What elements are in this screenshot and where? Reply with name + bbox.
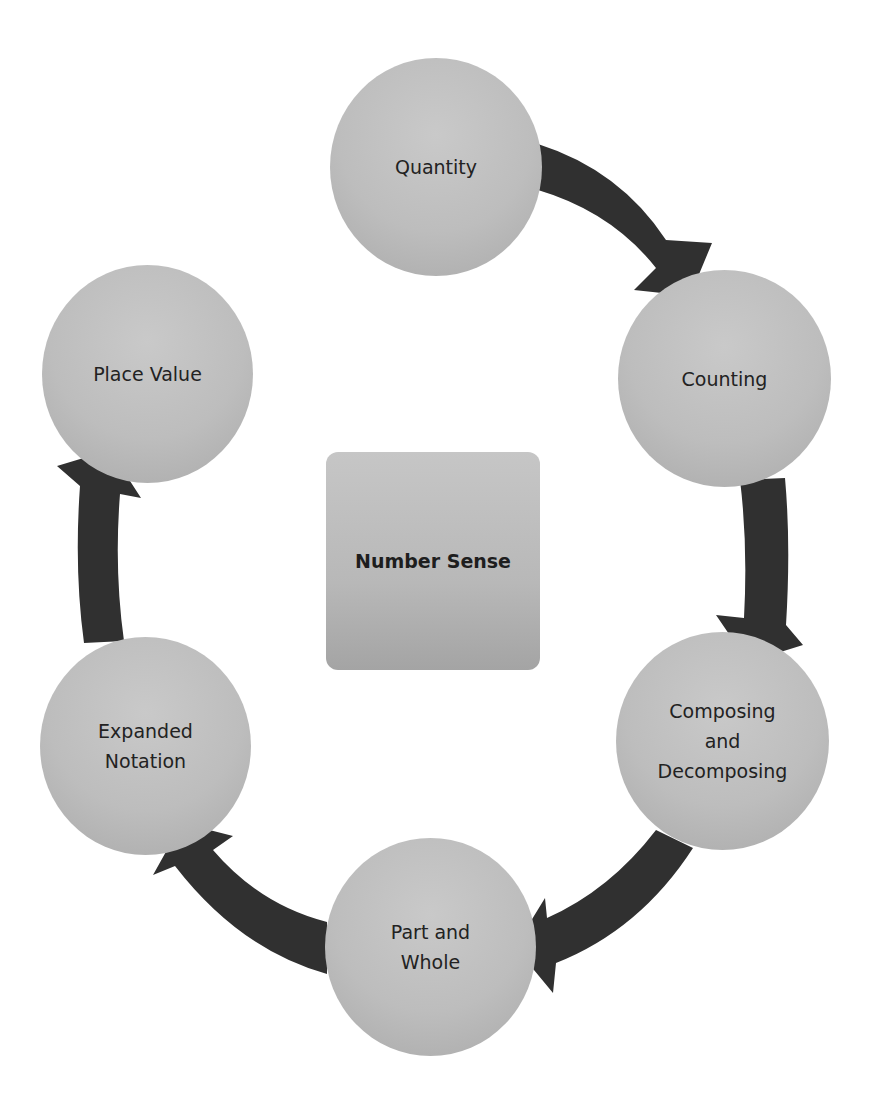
node-expanded-notation: Expanded Notation xyxy=(40,637,251,855)
node-label-line-1: Part and xyxy=(391,917,470,947)
node-place-value: Place Value xyxy=(42,265,253,483)
node-counting: Counting xyxy=(618,270,831,487)
node-label-line-2: Notation xyxy=(98,746,193,776)
arrow-quantity-to-counting xyxy=(538,144,712,296)
node-quantity: Quantity xyxy=(330,58,542,276)
node-part-and-whole: Part and Whole xyxy=(325,838,536,1056)
node-label-line-2: Whole xyxy=(391,947,470,977)
arrow-composing-to-part xyxy=(515,830,693,993)
node-label: Quantity xyxy=(395,152,477,182)
center-label-line-1: Number xyxy=(355,550,440,572)
center-number-sense: Number Sense xyxy=(326,452,540,670)
center-label-line-2: Sense xyxy=(447,550,511,572)
node-label-line-1: Expanded xyxy=(98,716,193,746)
node-label-line-3: Decomposing xyxy=(658,756,788,786)
cycle-diagram: Quantity Counting Composing and Decompos… xyxy=(0,0,870,1097)
node-label: Counting xyxy=(682,364,768,394)
node-label-line-1: Composing xyxy=(658,696,788,726)
node-label-line-2: and xyxy=(658,726,788,756)
node-composing-decomposing: Composing and Decomposing xyxy=(616,632,829,850)
node-label: Place Value xyxy=(93,359,202,389)
